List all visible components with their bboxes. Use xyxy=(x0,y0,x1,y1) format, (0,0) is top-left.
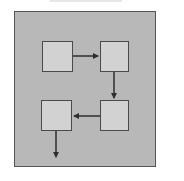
box-1 xyxy=(43,42,73,72)
diagram-panel xyxy=(15,12,156,167)
box-3 xyxy=(101,101,129,131)
box-2 xyxy=(101,42,129,72)
flow-diagram xyxy=(0,0,184,181)
box-4 xyxy=(42,101,72,131)
